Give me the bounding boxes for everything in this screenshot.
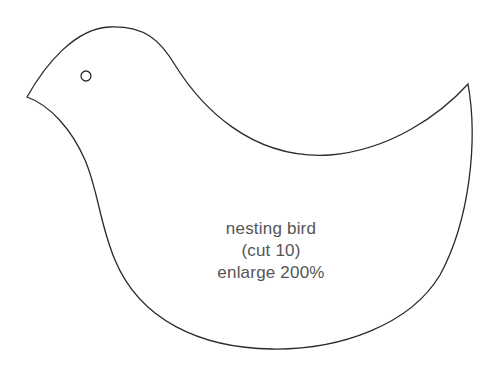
cut-count-label: (cut 10) [186, 240, 356, 262]
enlarge-instruction-label: enlarge 200% [186, 262, 356, 284]
bird-template-drawing [0, 0, 499, 372]
template-name-label: nesting bird [186, 218, 356, 240]
bird-outline [27, 27, 472, 349]
